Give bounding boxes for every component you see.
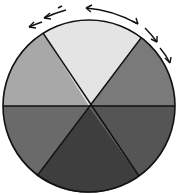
arrow-left-1-icon (44, 10, 66, 18)
arrow-left-2-icon (58, 6, 62, 8)
segmented-circle-diagram (0, 0, 178, 195)
arrow-right-1-icon (145, 28, 157, 42)
diagram-canvas (0, 0, 178, 195)
